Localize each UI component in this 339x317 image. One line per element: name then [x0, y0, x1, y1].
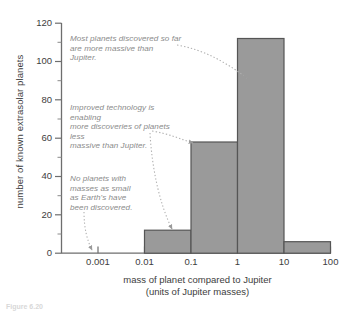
y-axis-title: number of known extrasolar planets [14, 17, 25, 247]
xtick-label-0.001: 0.001 [75, 256, 121, 267]
figure-caption: Figure 6.20 [6, 303, 43, 310]
ytick-label-20: 20 [26, 209, 52, 220]
xtick-label-100: 100 [308, 256, 339, 267]
xtick-label-0.01: 0.01 [122, 256, 168, 267]
bar-10-100 [284, 242, 331, 254]
annotation-improved-technology: Improved technology is enabling more dis… [70, 103, 186, 151]
ytick-label-100: 100 [22, 55, 52, 66]
ytick-label-0: 0 [26, 247, 52, 258]
bar-0.01-0.1 [145, 230, 192, 253]
figure-histogram-extrasolar-planets: 0 20 40 60 80 100 120 0.001 0.01 0.1 1 1… [0, 0, 339, 317]
x-axis-title-line2: (units of Jupiter masses) [60, 286, 335, 298]
xtick-label-1: 1 [215, 256, 261, 267]
leader-annotation-no-earth-mass [84, 212, 92, 250]
ytick-label-80: 80 [26, 94, 52, 105]
ytick-label-120: 120 [22, 17, 52, 28]
y-axis-major-ticks [55, 23, 62, 253]
xtick-label-10: 10 [261, 256, 307, 267]
x-axis-title: mass of planet compared to Jupiter (unit… [60, 274, 335, 297]
bar-0.1-1 [191, 142, 238, 253]
leader-annotation-most-massive [177, 45, 247, 78]
annotation-no-earth-mass: No planets with masses as small as Earth… [70, 174, 142, 212]
annotation-most-massive: Most planets discovered so far are more … [70, 34, 182, 63]
ytick-label-40: 40 [26, 170, 52, 181]
bar-1-10 [238, 39, 285, 254]
xtick-label-0.1: 0.1 [168, 256, 214, 267]
x-axis-title-line1: mass of planet compared to Jupiter [60, 274, 335, 286]
ytick-label-60: 60 [26, 132, 52, 143]
